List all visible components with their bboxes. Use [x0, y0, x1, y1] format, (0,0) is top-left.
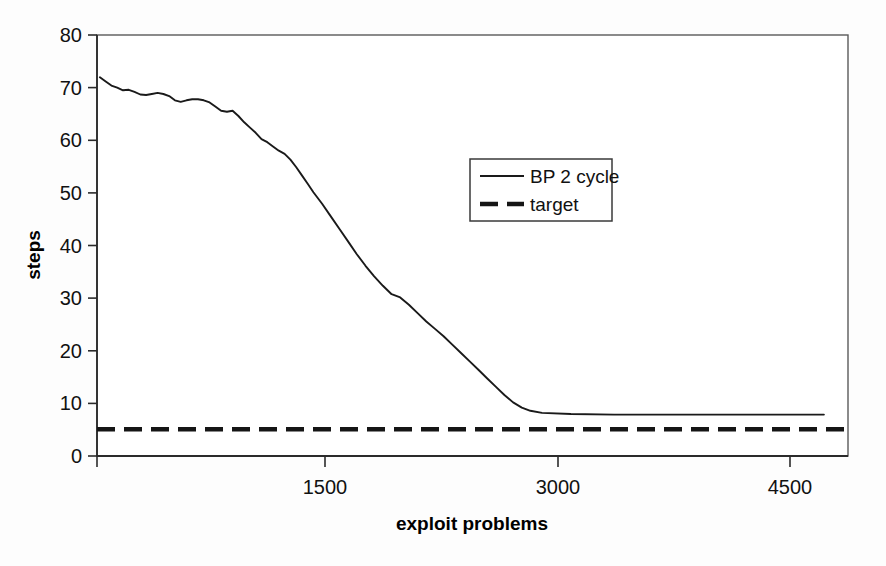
x-axis-title: exploit problems [396, 513, 548, 534]
x-axis-tick-labels: 1500 3000 4500 [303, 476, 813, 498]
x-tick-label-3000: 3000 [536, 476, 581, 498]
y-tick-label-10: 10 [60, 392, 82, 414]
chart-legend: BP 2 cycle target [470, 159, 619, 221]
legend-label-bp-2-cycle: BP 2 cycle [530, 166, 619, 187]
y-tick-label-40: 40 [60, 235, 82, 257]
legend-label-target: target [530, 194, 579, 215]
line-chart: 80 70 60 50 40 30 20 10 0 1500 3000 4500… [0, 0, 886, 566]
y-tick-label-50: 50 [60, 182, 82, 204]
y-tick-label-20: 20 [60, 340, 82, 362]
y-axis-ticks [88, 35, 97, 456]
y-tick-label-60: 60 [60, 129, 82, 151]
y-tick-label-30: 30 [60, 287, 82, 309]
y-axis-title: steps [23, 230, 44, 280]
x-tick-label-1500: 1500 [303, 476, 348, 498]
x-tick-label-4500: 4500 [768, 476, 813, 498]
y-tick-label-80: 80 [60, 24, 82, 46]
y-axis-tick-labels: 80 70 60 50 40 30 20 10 0 [60, 24, 82, 467]
y-tick-label-70: 70 [60, 77, 82, 99]
chart-figure: 80 70 60 50 40 30 20 10 0 1500 3000 4500… [0, 0, 886, 566]
plot-frame [97, 35, 848, 456]
y-tick-label-0: 0 [71, 445, 82, 467]
x-axis-ticks [97, 456, 790, 467]
